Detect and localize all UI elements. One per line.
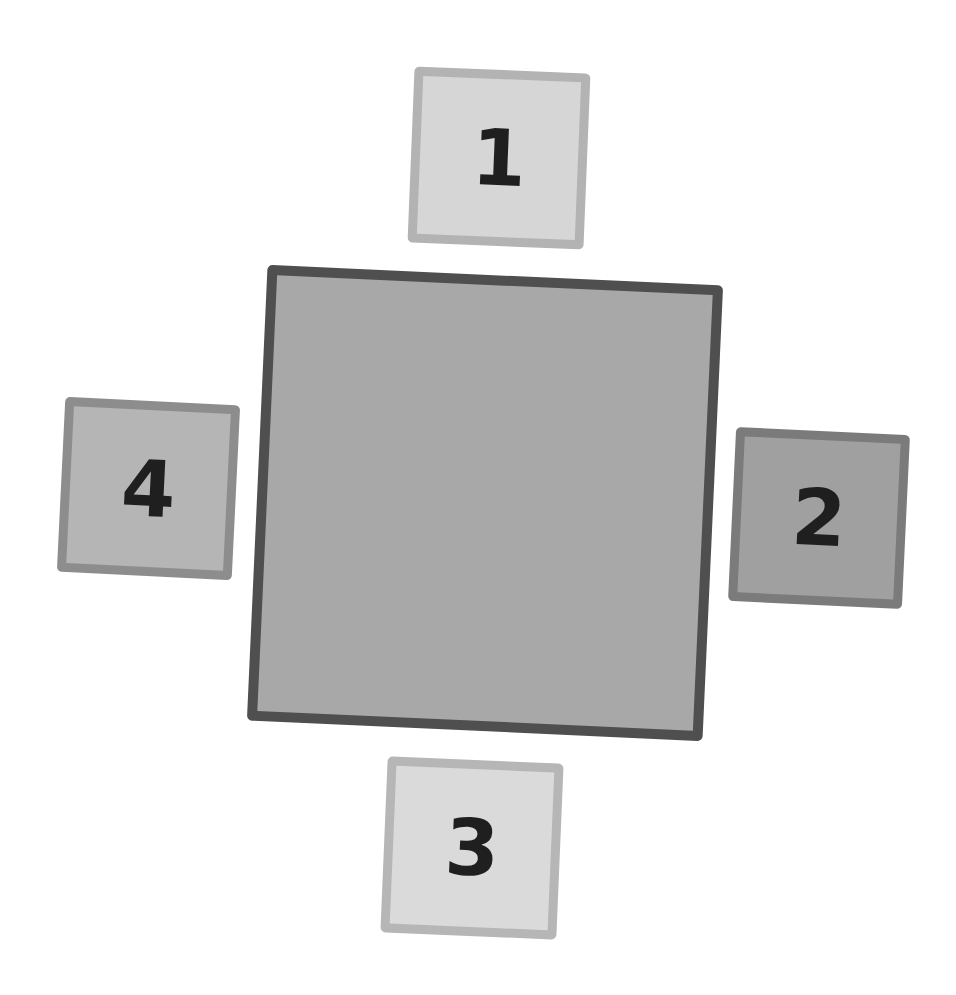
tile-2-right: 2 — [728, 427, 910, 609]
tile-label: 1 — [470, 118, 527, 198]
tile-label: 4 — [119, 448, 177, 529]
tile-1-top: 1 — [408, 67, 591, 250]
center-square — [247, 265, 723, 741]
tile-label: 2 — [790, 478, 848, 558]
tile-4-left: 4 — [57, 397, 240, 580]
tile-3-bottom: 3 — [380, 756, 563, 939]
tile-label: 3 — [443, 808, 500, 888]
